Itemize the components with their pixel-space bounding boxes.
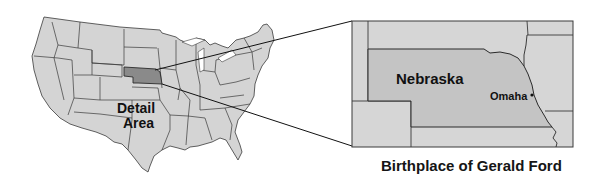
detail-map: Nebraska Omaha bbox=[352, 21, 573, 147]
map-caption: Birthplace of Gerald Ford bbox=[381, 157, 562, 174]
detail-area-label-1: Detail bbox=[117, 100, 155, 116]
omaha-label: Omaha bbox=[490, 90, 528, 102]
nebraska-label: Nebraska bbox=[396, 70, 464, 87]
omaha-city-dot bbox=[530, 93, 533, 96]
us-outline bbox=[32, 17, 274, 172]
detail-area-label-2: Area bbox=[123, 115, 154, 131]
us-overview-map: Detail Area bbox=[32, 17, 274, 172]
